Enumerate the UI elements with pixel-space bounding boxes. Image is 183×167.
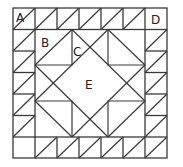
label-c: C — [73, 45, 81, 59]
label-b: B — [41, 36, 49, 50]
label-a: A — [16, 11, 25, 25]
quilt-block-diagram: A B C D E — [0, 0, 183, 167]
label-e: E — [85, 78, 93, 92]
label-d: D — [151, 13, 160, 27]
